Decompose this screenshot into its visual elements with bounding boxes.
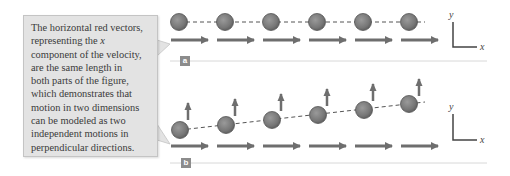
callout-line: which demonstrates that	[31, 87, 153, 100]
callout-pointer-b	[157, 124, 170, 144]
part-a-label: a	[180, 56, 190, 66]
callout-line: both parts of the figure,	[31, 74, 153, 87]
ball	[171, 14, 188, 31]
callout-line: The horizontal red vectors,	[31, 21, 153, 34]
callout-line: perpendicular directions.	[31, 141, 153, 154]
axis-x-label-a: x	[479, 41, 485, 52]
ball	[401, 14, 418, 31]
part-b-diagram: y x	[171, 79, 485, 146]
explanation-callout: The horizontal red vectors, representing…	[23, 15, 158, 157]
axis-x-label-b: x	[479, 134, 485, 145]
trajectory-b	[180, 102, 425, 130]
axis-y-label-a: y	[448, 9, 454, 20]
part-a-diagram: y x	[171, 9, 486, 52]
callout-pointer-a	[157, 40, 170, 56]
part-b-vertical-vectors	[188, 79, 419, 120]
callout-line: can be modeled as two	[31, 114, 153, 127]
axes-icon-a: y x	[448, 9, 485, 52]
callout-line: are the same length in	[31, 61, 153, 74]
ball	[355, 14, 372, 31]
axes-icon-b: y x	[448, 101, 485, 145]
callout-line: component of the velocity,	[31, 48, 153, 61]
axis-y-label-b: y	[448, 101, 454, 112]
callout-line-text: representing the x	[31, 35, 105, 46]
ball	[218, 117, 235, 134]
ball	[401, 96, 418, 113]
ball	[217, 14, 234, 31]
callout-line: motion in two dimensions	[31, 101, 153, 114]
ball	[356, 102, 373, 119]
projectile-motion-figure: y x y x The horizontal red vectors, repr…	[0, 0, 510, 176]
ball	[309, 14, 326, 31]
ball	[172, 122, 189, 139]
callout-line: independent motions in	[31, 127, 153, 140]
ball	[310, 107, 327, 124]
ball	[263, 14, 280, 31]
variable-x: x	[100, 35, 105, 46]
part-b-label: b	[181, 158, 191, 168]
callout-line: representing the x	[31, 34, 153, 47]
ball	[264, 112, 281, 129]
